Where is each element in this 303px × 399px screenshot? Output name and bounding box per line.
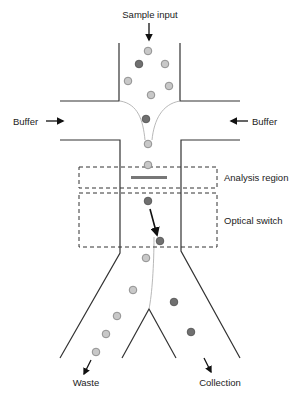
non-target-cell-particle [144,161,152,169]
non-target-cell-particle [129,286,137,294]
focusing-stream-lines [120,101,180,309]
target-cell-particle [135,60,143,68]
target-cell-particle [187,328,195,336]
non-target-cell-particle [142,254,150,262]
optical-switch-label: Optical switch [224,215,283,226]
buffer-right-label: Buffer [252,116,277,127]
non-target-cell-particle [92,348,100,356]
analysis-region-label: Analysis region [224,172,288,183]
buffer-left-label: Buffer [13,116,38,127]
target-cell-particle [156,237,164,245]
non-target-cell-particle [124,77,132,85]
non-target-cell-particle [144,47,152,55]
cell-sorter-diagram: Sample input Buffer Buffer Analysis regi… [0,0,303,399]
non-target-cell-particle [113,312,121,320]
waste-label: Waste [73,377,100,388]
switch-deflection-arrow-icon [150,209,157,235]
non-target-cell-particle [165,82,173,90]
target-cell-particle [170,298,178,306]
waste-arrow-icon [84,360,91,374]
non-target-cell-particle [102,330,110,338]
target-cell-particle [144,197,152,205]
target-cell-particle [142,115,150,123]
non-target-cell-particle [144,140,152,148]
detector-bar [131,176,167,179]
collection-arrow-icon [204,358,211,372]
sample-input-label: Sample input [122,9,178,20]
non-target-cell-particle [147,91,155,99]
collection-label: Collection [199,377,241,388]
non-target-cell-particle [161,60,169,68]
